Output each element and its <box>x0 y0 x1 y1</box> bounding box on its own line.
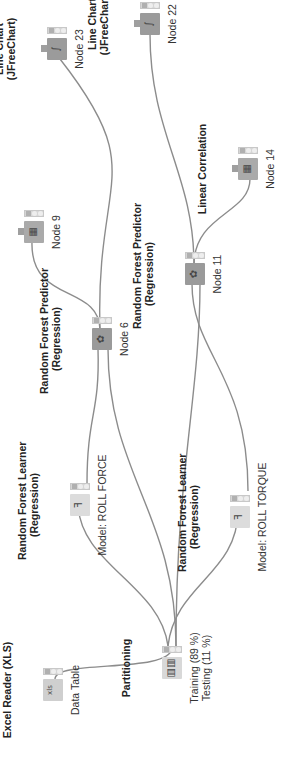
status-traffic-light <box>92 317 112 324</box>
node-title: Random Forest Predictor(Regression) <box>38 284 62 394</box>
node-title: Random Forest Learner(Regression) <box>16 450 40 560</box>
status-traffic-light <box>162 646 182 653</box>
node-label: Model: ROLL FORCE <box>96 450 108 560</box>
workflow-canvas[interactable]: Excel Reader (XLS) xls Data Table Partit… <box>0 0 294 774</box>
status-traffic-light <box>70 483 90 490</box>
node-label: Node 6 <box>118 284 130 394</box>
excel-reader-icon[interactable]: xls <box>43 679 63 701</box>
line-chart-icon[interactable]: ∫ <box>47 38 67 60</box>
node-label: Model: ROLL TORQUE <box>256 462 268 572</box>
node-title: Linear Correlation <box>196 114 208 224</box>
tree-predictor-icon[interactable]: ✿ <box>92 328 112 350</box>
status-traffic-light <box>185 252 205 259</box>
linear-correlation-icon[interactable]: ▦ <box>24 221 44 243</box>
status-traffic-light <box>43 668 63 675</box>
connection-rfp1-ch1[interactable] <box>60 59 112 330</box>
status-traffic-light <box>140 2 160 9</box>
node-label: Node 11 <box>211 219 223 329</box>
linear-correlation-icon[interactable]: ▦ <box>238 158 258 180</box>
tree-learner-icon[interactable]: ꟻ <box>230 506 250 528</box>
node-label: Training (89 %)Testing (11 %) <box>188 613 212 723</box>
partitioning-icon[interactable]: ▥▥ <box>162 657 182 679</box>
status-traffic-light <box>24 210 44 217</box>
node-title: Line Chart(JFreeChart) <box>86 0 110 79</box>
node-title: Random Forest Learner(Regression) <box>176 462 200 572</box>
node-label: Node 9 <box>50 177 62 287</box>
status-traffic-light <box>47 27 67 34</box>
node-label: Node 23 <box>73 0 85 104</box>
node-title: Random Forest Predictor(Regression) <box>131 219 155 329</box>
node-title: Partitioning <box>120 613 132 723</box>
line-chart-icon[interactable]: ∫ <box>140 13 160 35</box>
node-label: Node 22 <box>166 0 178 79</box>
tree-predictor-icon[interactable]: ✿ <box>185 263 205 285</box>
tree-learner-icon[interactable]: ꟻ <box>70 494 90 516</box>
node-title: Excel Reader (XLS) <box>1 635 13 745</box>
node-label: Data Table <box>69 635 81 745</box>
status-traffic-light <box>230 495 250 502</box>
status-traffic-light <box>238 147 258 154</box>
node-label: Node 14 <box>264 114 276 224</box>
node-title: Line Chart(JFreeChart) <box>0 0 17 104</box>
